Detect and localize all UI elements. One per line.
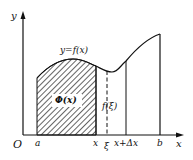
diagram-canvas [0,0,193,160]
x-axis-arrow-icon [176,133,184,138]
tick-x: x [93,139,98,148]
tick-b: b [157,139,163,148]
y-axis-label: y [11,11,17,21]
value-label: f(ξ) [102,102,117,111]
origin-label: O [13,139,22,150]
x-axis-label: x [176,139,182,149]
area-label: Φ(x) [55,96,77,105]
tick-xi: ξ [104,142,109,151]
curve-label: y=f(x) [60,46,88,55]
tick-x-plus-dx: x+Δx [114,139,138,148]
y-axis-arrow-icon [21,11,26,19]
integral-diagram: y O x y=f(x) Φ(x) f(ξ) a x ξ x+Δx b [0,0,193,160]
tick-a: a [35,139,40,148]
